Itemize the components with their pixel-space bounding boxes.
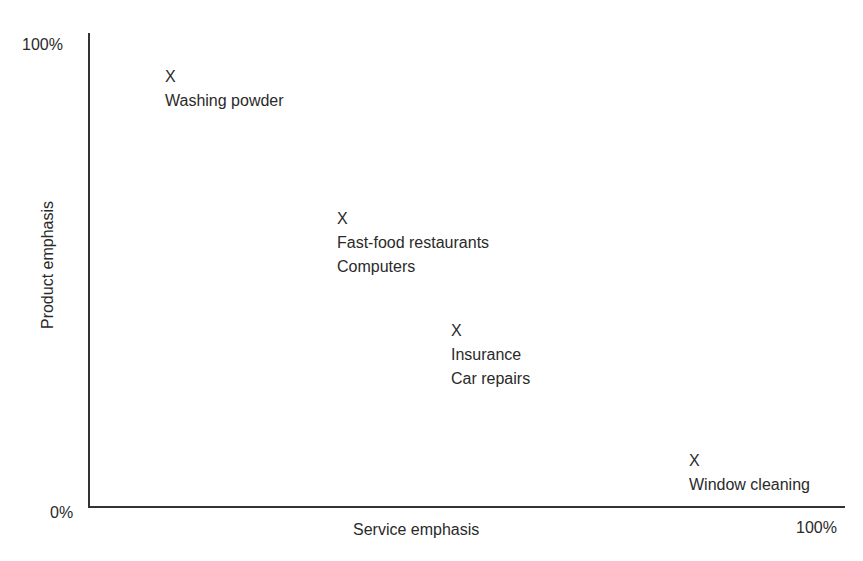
x-marker-icon: X [689, 449, 810, 473]
x-marker-icon: X [337, 207, 489, 231]
point-label: Fast-food restaurants [337, 231, 489, 255]
point-label: Washing powder [165, 89, 284, 113]
data-point-fast-food-computers: X Fast-food restaurants Computers [337, 207, 489, 279]
data-point-washing-powder: X Washing powder [165, 65, 284, 113]
point-label: Car repairs [451, 367, 530, 391]
origin-tick: 0% [50, 503, 73, 523]
data-point-insurance-car-repairs: X Insurance Car repairs [451, 319, 530, 391]
y-axis-max-tick: 100% [22, 35, 63, 55]
x-axis-label: Service emphasis [353, 520, 479, 540]
point-label: Window cleaning [689, 473, 810, 497]
x-marker-icon: X [165, 65, 284, 89]
point-label: Insurance [451, 343, 530, 367]
x-axis-max-tick: 100% [796, 518, 837, 538]
y-axis-line [88, 33, 90, 508]
y-axis-label: Product emphasis [39, 201, 57, 329]
point-label: Computers [337, 255, 489, 279]
x-marker-icon: X [451, 319, 530, 343]
data-point-window-cleaning: X Window cleaning [689, 449, 810, 497]
x-axis-line [88, 506, 845, 508]
